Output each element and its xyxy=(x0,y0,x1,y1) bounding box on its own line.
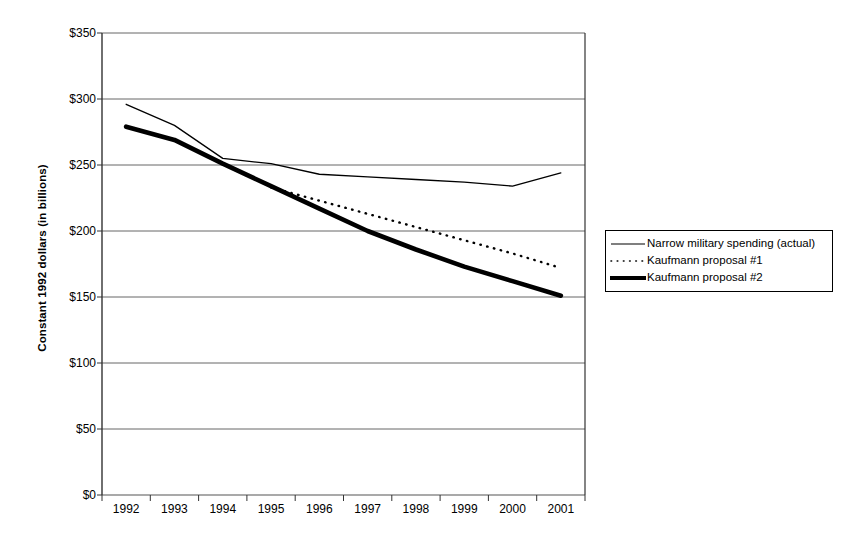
y-axis-tick-label: $50 xyxy=(38,423,96,435)
legend-item-0[interactable]: Narrow military spending (actual) xyxy=(610,235,828,252)
data-series-line xyxy=(126,104,561,186)
legend-item-label: Kaufmann proposal #2 xyxy=(646,271,763,284)
y-axis-tick-label: $200 xyxy=(38,225,96,237)
legend-item-1[interactable]: Kaufmann proposal #1 xyxy=(610,252,828,269)
x-axis-tick-label: 1993 xyxy=(161,503,188,515)
dotted-line-icon xyxy=(610,254,646,268)
y-axis-tick-label: $250 xyxy=(38,159,96,171)
x-axis-tick-label: 1994 xyxy=(209,503,236,515)
y-axis-tick-label: $300 xyxy=(38,93,96,105)
x-axis-tick-label: 1992 xyxy=(113,503,140,515)
legend-item-label: Kaufmann proposal #1 xyxy=(646,254,763,267)
plot-svg xyxy=(102,33,585,495)
legend-item-label: Narrow military spending (actual) xyxy=(646,237,815,250)
plot-area xyxy=(102,33,585,495)
x-axis-tick-label: 1996 xyxy=(306,503,333,515)
y-axis-tick-label: $0 xyxy=(38,489,96,501)
data-series-line xyxy=(126,127,561,296)
x-axis-tick-label: 1998 xyxy=(403,503,430,515)
solid-thin-line-icon xyxy=(610,237,646,251)
legend: Narrow military spending (actual) Kaufma… xyxy=(605,230,833,292)
x-axis-tick-label: 1995 xyxy=(258,503,285,515)
y-axis-tick-labels: $0$50$100$150$200$250$300$350 xyxy=(34,0,96,542)
y-axis-tick-label: $350 xyxy=(38,27,96,39)
legend-item-2[interactable]: Kaufmann proposal #2 xyxy=(610,269,828,286)
solid-thick-line-icon xyxy=(610,271,646,285)
y-axis-tick-label: $100 xyxy=(38,357,96,369)
y-axis-tick-label: $150 xyxy=(38,291,96,303)
line-chart: Constant 1992 dollars (in billions) $0$5… xyxy=(0,0,845,542)
x-axis-tick-label: 1999 xyxy=(451,503,478,515)
data-series-line xyxy=(271,187,561,268)
x-axis-tick-label: 2001 xyxy=(547,503,574,515)
x-axis-tick-label: 2000 xyxy=(499,503,526,515)
x-axis-tick-label: 1997 xyxy=(354,503,381,515)
